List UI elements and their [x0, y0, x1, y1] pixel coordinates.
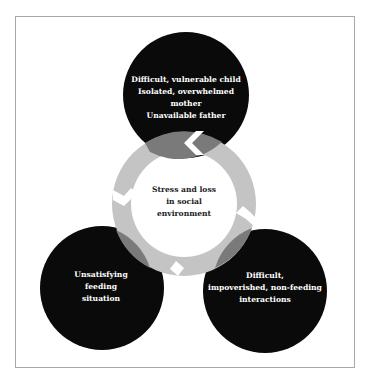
node-label-top: Difficult, vulnerable child Isolated, ov…: [118, 74, 254, 122]
node-label-bottom-left: Unsatisfying feeding situation: [52, 269, 150, 305]
node-label-bottom-right: Difficult, impoverished, non-feeding int…: [200, 270, 330, 306]
center-label: Stress and loss in social environment: [138, 184, 230, 220]
